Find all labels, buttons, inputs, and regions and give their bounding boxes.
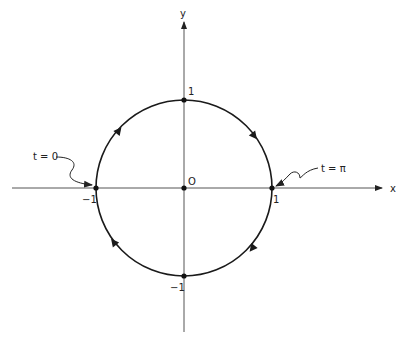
tick-label-y-neg: −1 — [170, 282, 185, 293]
annotation-t-0: t = 0 — [33, 151, 58, 162]
annotation-t-pi: t = π — [321, 163, 346, 174]
tick-label-x-neg: −1 — [82, 194, 97, 205]
x-axis-label: x — [390, 183, 396, 194]
point-y-neg — [181, 273, 186, 278]
point-y-pos — [181, 97, 186, 102]
point-x-pos — [269, 185, 274, 190]
unit-circle-diagram: y x O 1 −1 −1 1 t = 0 t = π — [0, 0, 406, 344]
point-origin — [181, 185, 186, 190]
tick-label-y-pos: 1 — [188, 86, 194, 97]
tick-label-x-pos: 1 — [273, 194, 279, 205]
y-axis-label: y — [180, 8, 186, 19]
pointer-arrow-icon — [56, 157, 92, 185]
point-x-neg — [93, 185, 98, 190]
pointer-arrow-icon — [276, 168, 318, 186]
origin-label: O — [188, 176, 196, 187]
